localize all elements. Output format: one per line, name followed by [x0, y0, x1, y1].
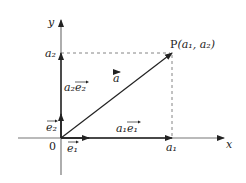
a2-tick-label: a₂	[45, 47, 56, 60]
a2e2-label: a₂e₂	[64, 81, 86, 94]
a1e1-label: a₁e₁	[116, 122, 138, 135]
vector-a-label: a	[113, 72, 120, 85]
a1-tick-label: a₁	[166, 141, 177, 154]
point-p-label: P(a₁, a₂)	[170, 38, 215, 51]
e1-label: e₁	[67, 142, 78, 155]
vector-diagram: y x 0 a₂ a₁ P(a₁, a₂) a a₂e₂ e₂ e₁ a₁e₁	[0, 0, 246, 183]
y-axis-label: y	[47, 16, 55, 29]
x-axis-label: x	[226, 138, 233, 151]
e2-label: e₂	[46, 121, 57, 134]
origin-label: 0	[49, 140, 56, 153]
point-coords: (a₁, a₂)	[177, 38, 215, 51]
